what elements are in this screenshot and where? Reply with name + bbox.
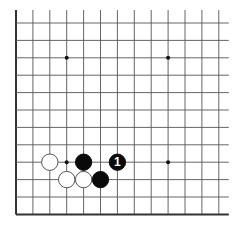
star-point xyxy=(166,56,170,60)
white-stone xyxy=(75,171,91,187)
white-stone-disc xyxy=(75,171,91,187)
white-stone xyxy=(58,171,74,187)
move-number-label: 1 xyxy=(114,155,121,169)
white-stone xyxy=(42,154,58,170)
board-grid xyxy=(16,10,229,214)
black-stone: 1 xyxy=(109,154,125,170)
star-point xyxy=(65,56,69,60)
white-stone-disc xyxy=(42,154,58,170)
black-stone xyxy=(75,154,91,170)
white-stone-disc xyxy=(58,171,74,187)
black-stone-disc xyxy=(75,154,91,170)
star-point xyxy=(166,160,170,164)
black-stone xyxy=(92,171,108,187)
go-board: 1 xyxy=(0,0,240,229)
black-stone-disc xyxy=(92,171,108,187)
star-point xyxy=(65,160,69,164)
